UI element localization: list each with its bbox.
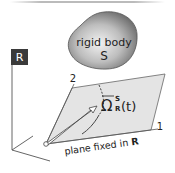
plane-caption-frame: R — [130, 135, 139, 147]
axis-2-label: 2 — [70, 73, 76, 84]
omega-superscript: S — [115, 95, 120, 103]
body-symbol: S — [100, 49, 108, 63]
origin-point — [44, 142, 49, 147]
frame-label: R — [16, 51, 24, 64]
frame-axis-horizontal — [12, 150, 50, 161]
omega-symbol: Ω — [101, 97, 112, 115]
rigid-body-angle-diagram: rigid body S R 2 1 Ω S R (t) plane fixed… — [0, 0, 175, 173]
top-divider — [10, 1, 165, 3]
axis-1-label: 1 — [157, 121, 163, 132]
frame-axis-depth — [12, 136, 33, 150]
body-label: rigid body — [76, 36, 132, 49]
omega-argument: (t) — [121, 99, 136, 114]
